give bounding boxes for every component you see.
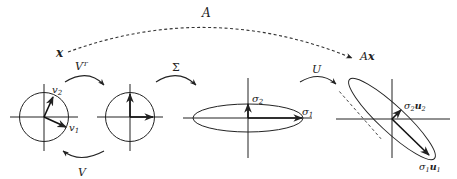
step-arrow-vt: [65, 76, 104, 85]
panel-unit-circle: [10, 84, 78, 151]
transform-a-arrow: [68, 27, 352, 58]
label-vt: Vᵀ: [75, 60, 89, 73]
label-ax: Ax: [359, 50, 375, 63]
label-sigma1-u1: σ1u1: [419, 161, 441, 174]
label-x: x: [55, 46, 64, 60]
panel-scaled-ellipse: [183, 78, 312, 158]
label-a: A: [201, 6, 211, 20]
label-u: U: [312, 63, 322, 76]
label-v: V: [78, 166, 87, 179]
svd-diagram: A x Ax Vᵀ V Σ U v2 v1 σ2: [0, 0, 457, 179]
label-sigma2-u2: σ2u2: [404, 100, 426, 113]
label-v2: v2: [52, 84, 63, 97]
panel-rotated-circle: [97, 84, 163, 151]
step-arrow-v-return: [63, 151, 104, 158]
label-v1: v1: [69, 122, 79, 135]
label-sigma1: σ1: [302, 106, 313, 119]
step-arrow-u: [300, 76, 336, 84]
step-arrow-sigma: [156, 76, 196, 85]
panel-rotated-ellipse: [336, 70, 450, 168]
label-sigma: Σ: [172, 61, 180, 74]
